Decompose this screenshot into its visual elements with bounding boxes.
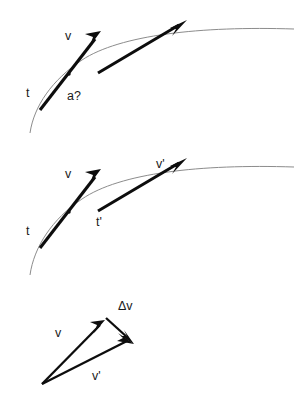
panel-3: v v' Δv [42,299,134,384]
physics-vector-diagram: t v a? t v t' v' [0,0,308,397]
midpoint-dot-panel-2 [67,210,70,213]
label-delta-v-panel-3: Δv [118,299,133,313]
panel-1: t v a? [26,20,294,133]
diagram-canvas: t v a? t v t' v' [0,0,308,397]
velocity-vector-v-prime-panel-3 [42,333,134,384]
label-a-query-panel-1: a? [67,89,81,103]
label-t-panel-2: t [26,224,30,238]
label-v-panel-3: v [55,326,62,340]
trajectory-curve-panel-1 [30,28,294,133]
panel-2: t v t' v' [26,157,294,275]
arrowhead-v-panel-3 [90,320,105,333]
label-t-panel-1: t [26,86,30,100]
label-v-prime-panel-3: v' [92,369,101,383]
label-v-panel-1: v [65,29,72,43]
label-t-prime-panel-2: t' [96,215,102,229]
midpoint-dot-panel-1 [67,72,70,75]
label-v-panel-2: v [65,167,72,181]
label-v-prime-panel-2: v' [156,157,165,171]
trajectory-curve-panel-2 [30,166,294,275]
